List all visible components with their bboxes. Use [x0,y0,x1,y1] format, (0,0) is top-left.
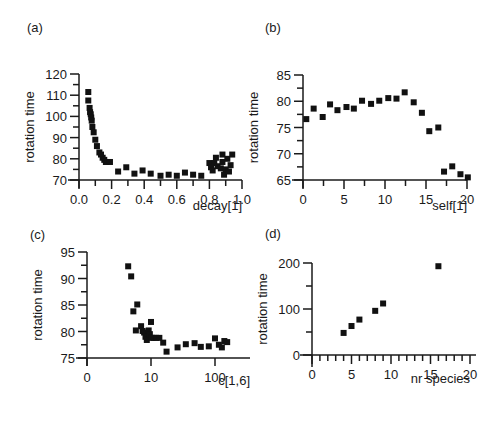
data-point [435,125,441,131]
y-tick-label: 85 [61,298,75,313]
x-tick-label: 5 [348,367,355,382]
data-point [224,339,230,345]
x-tick-label: 0.4 [135,192,153,207]
y-tick-label: 75 [277,121,291,136]
data-point [351,106,357,112]
data-point [219,344,225,350]
data-point [140,167,146,173]
x-tick-label: 0.2 [103,192,121,207]
data-point [372,308,378,314]
data-point [183,341,189,347]
data-point [190,172,196,178]
data-point [228,162,234,168]
data-point [465,174,471,180]
y-tick-label: 70 [53,173,67,188]
data-point [411,99,417,105]
data-point [213,155,219,161]
data-point [131,171,137,177]
data-point [441,169,447,175]
data-point [89,124,95,130]
data-point [212,335,218,341]
data-point [341,330,347,336]
data-point [356,317,362,323]
y-tick-label: 110 [46,88,67,103]
data-point [158,173,164,179]
data-point [148,319,154,325]
data-point [402,89,408,95]
y-tick-label: 80 [61,325,75,340]
data-point [359,98,365,104]
data-point [175,344,181,350]
data-point [393,96,399,102]
x-axis-title: nr species [411,371,471,386]
data-point [91,129,97,135]
data-point [123,164,129,170]
x-tick-label: 0 [308,367,315,382]
y-tick-label: 100 [278,302,300,317]
data-point [327,101,333,107]
data-point [85,89,91,95]
y-tick-label: 75 [61,351,75,366]
chart-figure: 708090100110120rotation time0.00.20.40.6… [0,0,503,426]
data-point [311,106,317,112]
data-point [380,300,386,306]
x-tick-label: 0 [299,192,306,207]
y-tick-label: 200 [278,256,300,271]
data-point [435,263,441,269]
data-point [426,128,432,134]
data-point [128,273,134,279]
data-point [125,263,131,269]
y-tick-label: 100 [45,109,67,124]
data-point [334,107,340,113]
x-tick-label: 15 [419,192,433,207]
data-point [166,172,172,178]
y-axis-title: rotation time [22,91,37,163]
data-point [94,143,100,149]
data-point [160,340,166,346]
data-point [148,171,154,177]
x-axis-title: c[1,6] [218,373,250,388]
data-point [164,349,170,355]
y-tick-label: 85 [277,68,291,83]
data-point [182,170,188,176]
data-point [115,169,121,175]
y-tick-label: 80 [277,94,291,109]
y-tick-label: 65 [277,173,291,188]
y-tick-label: 70 [277,147,291,162]
data-point [107,159,113,165]
y-axis-title: rotation time [255,273,270,345]
y-tick-label: 80 [53,152,67,167]
data-point [303,116,309,122]
data-point [89,118,95,124]
x-tick-label: 0.0 [70,192,88,207]
data-point [174,173,180,179]
data-point [320,114,326,120]
data-point [198,173,204,179]
x-tick-label: 10 [378,192,392,207]
data-point [130,308,136,314]
data-point [457,171,463,177]
data-point [206,343,212,349]
y-tick-label: 90 [53,131,67,146]
data-point [92,137,98,143]
data-point [385,95,391,101]
data-point [449,163,455,169]
data-point [229,152,235,158]
data-point [198,344,204,350]
data-point [349,323,355,329]
data-point [226,169,232,175]
y-tick-label: 95 [61,245,75,260]
x-tick-label: 5 [340,192,347,207]
y-axis-title: rotation time [246,92,261,164]
y-tick-label: 0 [293,348,300,363]
y-axis-title: rotation time [30,269,45,341]
data-point [134,301,140,307]
y-tick-label: 90 [61,272,75,287]
x-tick-label: 0 [83,370,90,385]
data-point [376,98,382,104]
x-axis-title: self[1] [432,198,467,213]
x-tick-label: 10 [384,367,398,382]
y-tick-label: 120 [45,67,67,82]
x-axis-title: decay[1] [193,198,242,213]
data-point [192,340,198,346]
